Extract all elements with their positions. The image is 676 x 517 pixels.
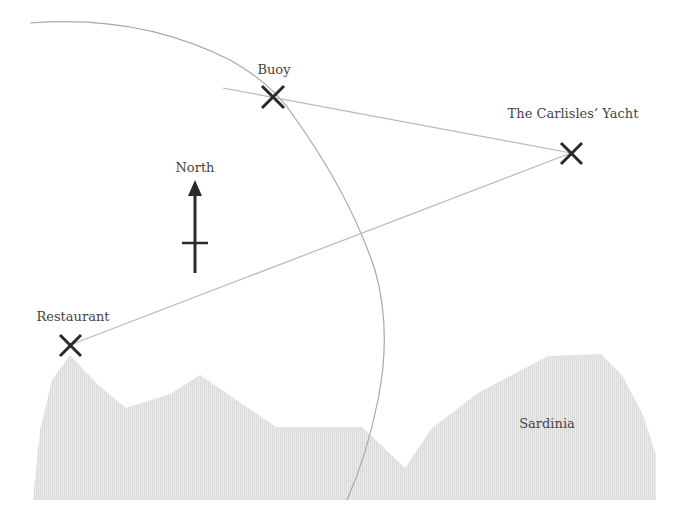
bearing-line-yacht-restaurant (70, 153, 571, 345)
map-svg: Buoy The Carlisles’ Yacht Restaurant Nor… (0, 0, 676, 517)
restaurant-label: Restaurant (36, 309, 110, 324)
buoy-label: Buoy (257, 62, 291, 77)
yacht-label: The Carlisles’ Yacht (508, 106, 640, 121)
sardinia-label: Sardinia (519, 416, 575, 431)
buoy-marker-icon (262, 86, 284, 108)
yacht-marker-icon (561, 143, 582, 164)
restaurant-marker-icon (60, 335, 81, 356)
north-label: North (175, 160, 215, 175)
north-arrow-icon (182, 180, 208, 273)
diagram-canvas: Buoy The Carlisles’ Yacht Restaurant Nor… (0, 0, 676, 517)
